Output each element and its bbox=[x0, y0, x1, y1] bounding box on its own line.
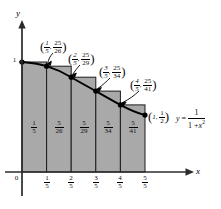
num: 5 bbox=[55, 120, 64, 127]
fraction: 5 26 bbox=[55, 120, 64, 135]
x-axis-label: x bbox=[196, 166, 200, 176]
fraction: 1 5 bbox=[31, 120, 37, 135]
equation-numerator: 1 bbox=[188, 108, 205, 118]
fraction: 2 5 bbox=[68, 175, 74, 190]
x-tick-label-4: 5 5 bbox=[136, 175, 154, 190]
den: 5 bbox=[93, 182, 99, 190]
fraction: 4 5 bbox=[117, 175, 123, 190]
num: 5 bbox=[80, 120, 89, 127]
den: 41 bbox=[143, 85, 152, 93]
comma: , bbox=[140, 81, 142, 89]
fraction: 3 5 bbox=[93, 175, 99, 190]
fraction: 5 34 bbox=[104, 120, 113, 135]
num: 5 bbox=[129, 120, 138, 127]
rectangles-group bbox=[22, 62, 145, 172]
den: 34 bbox=[104, 127, 113, 135]
den: 5 bbox=[31, 127, 37, 135]
fraction-y: 2541 bbox=[143, 78, 152, 93]
comma: , bbox=[50, 43, 52, 51]
fraction-y: 2534 bbox=[112, 65, 121, 80]
equation-denominator: 1 +x2 bbox=[188, 118, 205, 131]
x-tick-label-1: 2 5 bbox=[62, 175, 80, 190]
equation-equals: = bbox=[182, 114, 187, 123]
denominator-exponent: 2 bbox=[202, 119, 205, 125]
den: 26 bbox=[53, 47, 62, 55]
denominator-prefix: 1 + bbox=[188, 121, 199, 130]
origin-text: 0 bbox=[15, 174, 19, 182]
x-axis-name: x bbox=[196, 166, 200, 176]
den: 29 bbox=[80, 127, 89, 135]
function-equation: y = 1 1 +x2 bbox=[176, 108, 205, 131]
num: 1 bbox=[44, 175, 50, 182]
den: 5 bbox=[68, 182, 74, 190]
fraction: 5 5 bbox=[142, 175, 148, 190]
y-tick-1-text: 1 bbox=[13, 56, 17, 64]
point-annotation-1: (15, 2526) bbox=[40, 39, 67, 55]
bar-area-label-1: 5 26 bbox=[49, 120, 69, 135]
y-axis-arrow bbox=[18, 20, 25, 29]
fraction: 5 29 bbox=[80, 120, 89, 135]
equation-fraction: 1 1 +x2 bbox=[188, 108, 205, 131]
bar-area-label-4: 5 41 bbox=[123, 120, 143, 135]
num: 5 bbox=[142, 175, 148, 182]
den: 34 bbox=[112, 72, 121, 80]
riemann-bar-0 bbox=[22, 62, 47, 172]
comma: , bbox=[109, 68, 111, 76]
point-annotation-3: (35, 2534) bbox=[99, 64, 126, 80]
x-axis-arrow bbox=[186, 168, 195, 175]
point-annotation-4: (45, 2541) bbox=[130, 77, 157, 93]
fraction: 5 41 bbox=[129, 120, 138, 135]
comma: , bbox=[78, 55, 80, 63]
point-annotation-5: (1, 12) bbox=[148, 109, 169, 125]
equation-lhs: y bbox=[176, 114, 180, 123]
origin-label: 0 bbox=[12, 174, 21, 182]
den: 26 bbox=[55, 127, 64, 135]
bar-area-label-0: 1 5 bbox=[25, 120, 43, 135]
den: 5 bbox=[44, 182, 50, 190]
num: 3 bbox=[93, 175, 99, 182]
y-axis-name: y bbox=[16, 8, 20, 18]
num: 5 bbox=[104, 120, 113, 127]
num: 25 bbox=[53, 40, 62, 47]
bar-area-label-2: 5 29 bbox=[74, 120, 94, 135]
num: 25 bbox=[143, 78, 152, 85]
x-tick-label-2: 3 5 bbox=[87, 175, 105, 190]
point-1 bbox=[142, 113, 147, 118]
bar-area-label-3: 5 34 bbox=[98, 120, 118, 135]
num: 2 bbox=[68, 175, 74, 182]
paren-close: ) bbox=[90, 51, 94, 66]
x-tick-label-3: 4 5 bbox=[111, 175, 129, 190]
y-axis-label: y bbox=[16, 8, 20, 18]
den: 5 bbox=[117, 182, 123, 190]
num: 1 bbox=[31, 120, 37, 127]
num: 25 bbox=[112, 65, 121, 72]
figure-canvas: · · · · bbox=[0, 0, 221, 209]
x-tick-label-0: 1 5 bbox=[38, 175, 56, 190]
fraction-y: 2529 bbox=[81, 52, 90, 67]
paren-close: ) bbox=[121, 64, 125, 79]
den: 5 bbox=[142, 182, 148, 190]
paren-close: ) bbox=[165, 109, 169, 124]
fraction-y: 2526 bbox=[53, 40, 62, 55]
paren-close: ) bbox=[152, 77, 156, 92]
comma: , bbox=[156, 113, 158, 121]
point-annotation-2: (25, 2529) bbox=[68, 51, 95, 67]
paren-close: ) bbox=[62, 39, 66, 54]
num: 4 bbox=[117, 175, 123, 182]
den: 29 bbox=[81, 59, 90, 67]
fraction: 1 5 bbox=[44, 175, 50, 190]
num: 25 bbox=[81, 52, 90, 59]
y-tick-label-1: 1 bbox=[10, 56, 19, 64]
den: 41 bbox=[129, 127, 138, 135]
